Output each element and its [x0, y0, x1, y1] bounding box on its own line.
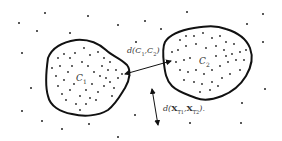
dx-end: ).: [199, 104, 205, 113]
cluster-c1-boundary: [46, 40, 129, 116]
dc-main: d(C: [127, 46, 141, 55]
c1-subscript: 1: [83, 78, 87, 85]
c2-letter: C: [199, 56, 206, 66]
inter-cluster-distance-label: d(C1,C2): [127, 47, 160, 57]
dc-end: ): [156, 46, 159, 55]
cluster-c1-points: [51, 47, 123, 111]
c1-letter: C: [76, 73, 83, 83]
dc-mid: ,C: [145, 46, 154, 55]
dx-main: d(: [163, 104, 171, 113]
c2-subscript: 2: [206, 61, 210, 68]
cluster-c2-label: C2: [199, 57, 210, 68]
point-distance-label: d(XT1,XT2).: [163, 104, 205, 115]
cluster-c1-label: C1: [76, 74, 87, 85]
point-distance-arrow: [152, 89, 158, 125]
diagram-canvas: [0, 0, 282, 141]
